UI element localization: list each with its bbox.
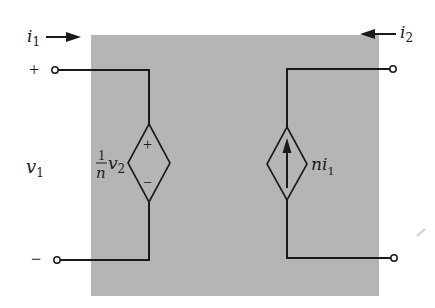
port1-minus-terminal[interactable] — [54, 257, 60, 263]
port2-minus-terminal[interactable] — [391, 255, 397, 261]
two-port-box — [91, 35, 379, 296]
v1-label: v1 — [26, 156, 44, 180]
port1-plus-terminal[interactable] — [52, 67, 58, 73]
port1-plus-sign: + — [29, 60, 39, 80]
i1-label: i1 — [27, 26, 40, 49]
fraction-numerator: 1 — [98, 148, 105, 163]
source-minus-sign: − — [143, 174, 152, 191]
fraction-denominator: n — [96, 164, 106, 182]
source-plus-sign: + — [143, 136, 152, 153]
stray-mark — [417, 229, 425, 236]
circuit-diagram: i1 i2 + − v1 1 n v2 + − ni1 — [0, 0, 435, 308]
port2-plus-terminal[interactable] — [390, 66, 396, 72]
right-arrow-icon — [66, 32, 81, 42]
i2-label: i2 — [400, 22, 413, 45]
port1-minus-sign: − — [31, 249, 41, 269]
